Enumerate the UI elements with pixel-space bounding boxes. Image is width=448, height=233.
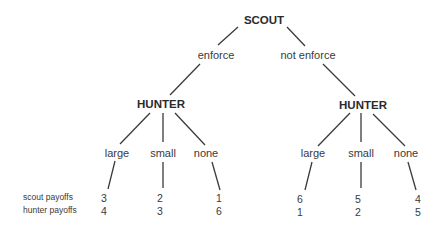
scout-payoff: 5: [355, 193, 361, 205]
hunter-payoff: 6: [216, 205, 222, 217]
hunter-payoff: 4: [101, 205, 107, 217]
edge-rhunter-large: [318, 113, 350, 146]
edge-scout-enforce: [218, 27, 238, 45]
hunter-node-left: HUNTER: [137, 98, 185, 110]
edge-rhunter-none: [373, 114, 405, 146]
action-enforce: enforce: [198, 49, 235, 61]
edge-not-enforce-hunter: [323, 64, 355, 96]
hunter-payoff: 1: [297, 206, 303, 218]
edge-l-none-payoff: [212, 162, 220, 190]
scout-payoff: 4: [415, 193, 421, 205]
scout-payoff: 1: [216, 192, 222, 204]
hunter-payoffs-label: hunter payoffs: [23, 205, 77, 215]
hunter-payoff: 2: [355, 206, 361, 218]
action-not-enforce: not enforce: [280, 49, 335, 61]
edge-lhunter-none: [175, 113, 205, 145]
action-none-right: none: [394, 147, 418, 159]
edge-l-large-payoff: [108, 161, 115, 189]
scout-payoff: 6: [297, 193, 303, 205]
edge-r-none-payoff: [408, 162, 416, 190]
scout-node: SCOUT: [244, 14, 284, 26]
scout-payoff: 2: [157, 192, 163, 204]
edge-scout-not-enforce: [287, 27, 305, 46]
hunter-payoff: 3: [157, 205, 163, 217]
action-large-left: large: [105, 147, 129, 159]
action-small-left: small: [150, 147, 176, 159]
scout-payoffs-label: scout payoffs: [23, 192, 73, 202]
action-none-left: none: [194, 147, 218, 159]
hunter-node-right: HUNTER: [339, 99, 387, 111]
edge-enforce-hunter: [170, 64, 200, 95]
edge-lhunter-large: [120, 113, 150, 144]
action-large-right: large: [301, 147, 325, 159]
edge-r-large-payoff: [305, 162, 312, 190]
hunter-payoff: 5: [415, 206, 421, 218]
action-small-right: small: [348, 147, 374, 159]
scout-payoff: 3: [101, 192, 107, 204]
